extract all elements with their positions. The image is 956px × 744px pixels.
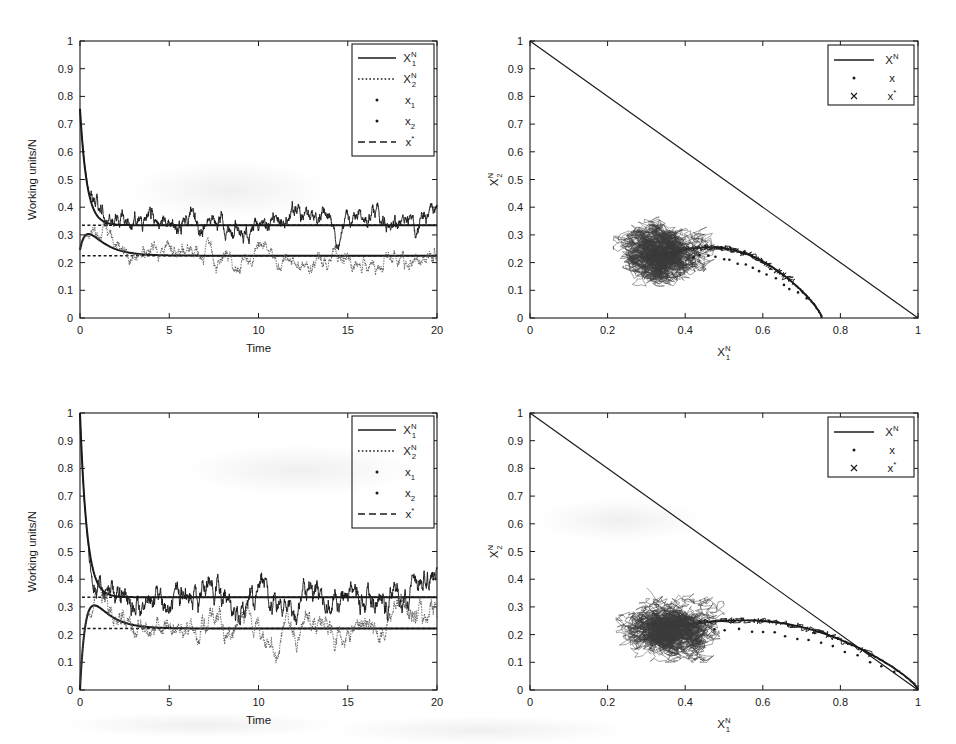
y-tick-label: 0.3	[508, 601, 523, 613]
y-tick-label: 0.5	[58, 546, 73, 558]
y-tick-label: 0.2	[508, 629, 523, 641]
phase-sample-dot	[765, 273, 768, 276]
phase-sample-dot	[738, 628, 741, 631]
x-tick-label: 1	[915, 696, 921, 708]
legend-sample-dot	[853, 77, 856, 80]
legend-label: x	[889, 72, 895, 84]
x-tick-label: 0	[77, 324, 83, 336]
x-tick-label: 0.4	[678, 696, 693, 708]
y-tick-label: 0	[517, 684, 523, 696]
phase-sample-dot	[752, 266, 755, 269]
y-tick-label: 0.4	[58, 201, 73, 213]
y-tick-label: 0	[67, 312, 73, 324]
svg-text:x: x	[889, 444, 895, 456]
phase-sample-dot	[723, 629, 726, 632]
y-tick-label: 0.7	[508, 490, 523, 502]
y-tick-label: 0.4	[58, 573, 73, 585]
phase-sample-dot	[820, 641, 823, 644]
phase-sample-dot	[880, 665, 883, 668]
phase-sample-dot	[762, 631, 765, 634]
panel-bottom-right: 00.10.20.30.40.50.60.70.80.9100.20.40.60…	[478, 372, 956, 744]
y-tick-label: 0.9	[58, 63, 73, 75]
x-tick-label: 0.4	[678, 324, 693, 336]
phase-sample-dot	[707, 254, 710, 257]
phase-sample-dot	[723, 258, 726, 261]
legend-box	[352, 416, 434, 528]
phase-stationary-cloud	[613, 217, 714, 286]
svg-text:XN1: XN1	[717, 344, 730, 362]
phase-sample-dot	[773, 631, 776, 634]
x-axis-title: XN1	[717, 344, 730, 362]
phase-sample-dot	[713, 628, 716, 631]
x-tick-label: 15	[342, 324, 354, 336]
panel-top-left: 00.10.20.30.40.50.60.70.80.9105101520Tim…	[0, 0, 478, 372]
deterministic-phase-path	[670, 620, 918, 690]
legend-box	[828, 417, 914, 477]
x-tick-label: 15	[342, 696, 354, 708]
legend-sample-dot	[853, 449, 856, 452]
legend-sample-dot	[376, 120, 379, 123]
y-tick-label: 1	[67, 35, 73, 47]
y-tick-label: 0.3	[508, 229, 523, 241]
legend-label: x	[889, 444, 895, 456]
x-tick-label: 1	[915, 324, 921, 336]
phase-sample-dot	[788, 288, 791, 291]
phase-sample-dot	[714, 255, 717, 258]
svg-text:XN2: XN2	[486, 173, 504, 186]
x-tick-label: 0.6	[755, 324, 770, 336]
legend-box	[828, 45, 914, 105]
phase-sample-dot	[728, 258, 731, 261]
y-axis-title: Working units/N	[26, 511, 38, 592]
x-axis-title: Time	[246, 714, 271, 726]
x-axis-title: Time	[246, 342, 271, 354]
legend-sample-dot	[376, 471, 379, 474]
legend-box	[352, 44, 434, 156]
y-axis-title: Working units/N	[26, 139, 38, 220]
phase-sample-dot	[893, 671, 896, 674]
y-tick-label: 0	[67, 684, 73, 696]
y-tick-label: 0.8	[58, 462, 73, 474]
y-tick-label: 0.4	[508, 573, 523, 585]
y-tick-label: 0.3	[58, 601, 73, 613]
phase-sample-dot	[832, 645, 835, 648]
x-tick-label: 10	[252, 696, 264, 708]
y-tick-label: 0.5	[508, 546, 523, 558]
x-tick-label: 0.2	[600, 324, 615, 336]
phase-sample-dot	[856, 654, 859, 657]
y-tick-label: 0.2	[58, 629, 73, 641]
y-tick-label: 0.7	[58, 490, 73, 502]
x-tick-label: 0.2	[600, 696, 615, 708]
phase-sample-dot	[807, 639, 810, 642]
y-tick-label: 0.1	[508, 656, 523, 668]
legend-sample-dot	[376, 99, 379, 102]
y-tick-label: 0.7	[508, 118, 523, 130]
phase-sample-dot	[784, 635, 787, 638]
y-tick-label: 0.1	[58, 284, 73, 296]
y-tick-label: 0.6	[58, 518, 73, 530]
phase-sample-dot	[745, 263, 748, 266]
y-tick-label: 0.1	[508, 284, 523, 296]
y-tick-label: 0.5	[58, 174, 73, 186]
y-tick-label: 0.8	[58, 90, 73, 102]
y-tick-label: 0.2	[58, 257, 73, 269]
x-tick-label: 0	[77, 696, 83, 708]
y-tick-label: 0.1	[58, 656, 73, 668]
phase-sample-dot	[796, 638, 799, 641]
figure-canvas: 00.10.20.30.40.50.60.70.80.9105101520Tim…	[0, 0, 956, 744]
y-tick-label: 0.9	[58, 435, 73, 447]
phase-sample-dot	[775, 277, 778, 280]
x-tick-label: 0.6	[755, 696, 770, 708]
panel-bottom-left: 00.10.20.30.40.50.60.70.80.9105101520Tim…	[0, 372, 478, 744]
x-tick-label: 5	[166, 696, 172, 708]
x-tick-label: 0	[527, 696, 533, 708]
svg-text:x: x	[889, 72, 895, 84]
y-tick-label: 0.2	[508, 257, 523, 269]
y-tick-label: 0.9	[508, 435, 523, 447]
phase-sample-dot	[692, 256, 695, 259]
y-tick-label: 0.8	[508, 462, 523, 474]
y-tick-label: 0.6	[58, 146, 73, 158]
y-tick-label: 0.6	[508, 518, 523, 530]
y-tick-label: 0.5	[508, 174, 523, 186]
panel-top-right: 00.10.20.30.40.50.60.70.80.9100.20.40.60…	[478, 0, 956, 372]
y-tick-label: 1	[517, 407, 523, 419]
